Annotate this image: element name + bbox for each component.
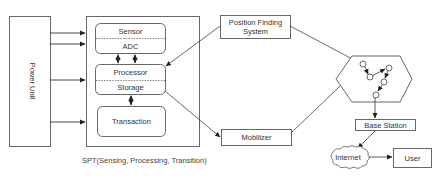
- user-label: User: [405, 154, 421, 163]
- internet-label: Internet: [335, 153, 361, 162]
- transaction-label: Transaction: [112, 117, 151, 126]
- sensor-node: [373, 92, 379, 98]
- mobilizer-label: Mobilizer: [241, 133, 272, 142]
- position-finding-label-line1: Position Finding: [229, 18, 282, 27]
- base-station-label: Base Station: [364, 121, 407, 130]
- sensor-field-hexagon: [336, 56, 412, 102]
- sensor-label: Sensor: [119, 27, 143, 36]
- processor-label: Processor: [114, 68, 148, 77]
- base-to-internet-arrow: [358, 131, 375, 148]
- position-finding-block: Position Finding System: [221, 16, 291, 39]
- position-to-processor-arrow: [166, 26, 220, 66]
- mobilizer-block: Mobilizer: [222, 130, 292, 146]
- position-finding-label-line2: System: [243, 27, 268, 36]
- sensor-node: [367, 74, 373, 80]
- processor-storage-block: Processor Storage: [96, 65, 166, 95]
- sensor-node: [381, 79, 387, 85]
- storage-to-mobilizer-arrow: [165, 91, 220, 137]
- storage-label: Storage: [117, 83, 143, 92]
- spt-caption: SPT(Sensing, Processing, Transition): [82, 156, 207, 165]
- sensor-node: [360, 61, 366, 67]
- position-to-field-arrow: [290, 26, 360, 63]
- transaction-block: Transaction: [98, 107, 166, 137]
- sensor-node: [386, 65, 392, 71]
- internet-cloud: Internet: [331, 146, 369, 169]
- power-unit-block: Power Unit: [10, 17, 51, 147]
- power-unit-label: Power Unit: [28, 63, 37, 101]
- architecture-diagram: Power Unit Sensor ADC Processor Storage …: [0, 0, 443, 182]
- user-block: User: [394, 149, 432, 168]
- power-arrows: [50, 33, 85, 122]
- connector-lines: [165, 26, 361, 137]
- base-station-block: Base Station: [356, 120, 416, 131]
- sensor-adc-block: Sensor ADC: [96, 24, 166, 54]
- adc-label: ADC: [123, 42, 139, 51]
- adc-processor-arrows: [118, 55, 135, 63]
